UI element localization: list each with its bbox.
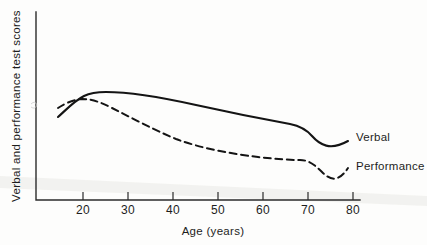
chart-figure: 20 30 40 50 60 70 80 Age (years) Verbal … <box>0 0 427 245</box>
line-chart-svg: 20 30 40 50 60 70 80 Age (years) Verbal … <box>0 0 427 245</box>
y-axis-title: Verbal and performance test scores <box>10 10 22 202</box>
x-axis-title: Age (years) <box>182 225 245 237</box>
tick-label-50: 50 <box>211 203 225 217</box>
series-line-verbal <box>58 92 348 146</box>
tick-label-70: 70 <box>301 203 315 217</box>
tick-label-30: 30 <box>121 203 135 217</box>
tick-label-40: 40 <box>166 203 180 217</box>
tick-label-80: 80 <box>346 203 360 217</box>
scan-artifact-streak <box>0 176 427 206</box>
tick-label-60: 60 <box>256 203 270 217</box>
tick-label-20: 20 <box>76 203 90 217</box>
series-label-verbal: Verbal <box>356 131 390 143</box>
axes-group <box>31 12 360 200</box>
series-line-performance <box>58 99 348 179</box>
x-axis-tick-labels: 20 30 40 50 60 70 80 <box>76 203 360 217</box>
series-label-performance: Performance <box>356 160 425 172</box>
